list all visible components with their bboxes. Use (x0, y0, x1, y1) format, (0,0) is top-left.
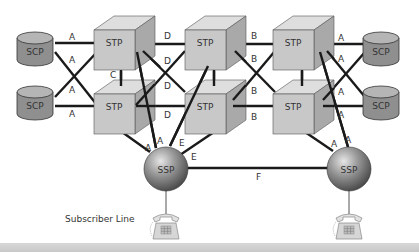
ss7-network-diagram: SCP SCP SCP SCP STP STP STP STP (0, 0, 419, 252)
scp-top-left[interactable]: SCP (17, 32, 53, 66)
telephone-right-icon[interactable] (333, 214, 362, 239)
link-label-e: E (179, 138, 185, 148)
link-label-a: A (338, 87, 345, 97)
link-label-a: A (338, 110, 345, 120)
stp-col3-top[interactable]: STP (273, 16, 334, 70)
link-label-a: A (69, 109, 76, 119)
stp-label: STP (285, 38, 302, 48)
stp-label: STP (106, 102, 123, 112)
telephone-left-icon[interactable] (150, 214, 179, 239)
stp-label: STP (285, 102, 302, 112)
subscriber-line-label: Subscriber Line (65, 214, 135, 224)
link-label-b: B (251, 54, 257, 64)
link-label-b: B (251, 112, 257, 122)
footer-bar (0, 243, 419, 252)
scp-bottom-right[interactable]: SCP (363, 86, 399, 120)
link-label-d: D (164, 31, 171, 41)
link-label-a: A (69, 32, 76, 42)
link-label-d: D (164, 81, 171, 91)
scp-label: SCP (26, 47, 44, 57)
ssp-label: SSP (341, 165, 358, 175)
link-label-f: F (256, 172, 261, 182)
stp-label: STP (197, 102, 214, 112)
link-label-d: D (164, 56, 171, 66)
ssp-right[interactable]: SSP (327, 147, 371, 191)
scp-label: SCP (26, 101, 44, 111)
ssp-label: SSP (158, 165, 175, 175)
link-label-a: A (338, 54, 345, 64)
link-label-c: C (110, 70, 116, 80)
link-label-a: A (69, 85, 76, 95)
link-label-b: B (251, 86, 257, 96)
link-label-b: B (251, 31, 257, 41)
stp-col1-top[interactable]: STP (94, 16, 155, 70)
scp-top-right[interactable]: SCP (363, 32, 399, 66)
link-label-a: A (157, 136, 164, 146)
stp-label: STP (106, 38, 123, 48)
link-label-a: A (331, 139, 338, 149)
ssp-left[interactable]: SSP (144, 147, 188, 191)
link-label-a: A (345, 135, 352, 145)
scp-label: SCP (372, 101, 390, 111)
link-label-a: A (69, 55, 76, 65)
stp-label: STP (197, 38, 214, 48)
link-ssp-r-stp-3b (305, 132, 333, 151)
link-label-a: A (338, 33, 345, 43)
link-label-a: A (145, 143, 152, 153)
scp-label: SCP (372, 47, 390, 57)
link-label-d: D (164, 110, 171, 120)
stp-col2-top[interactable]: STP (185, 16, 246, 70)
scp-bottom-left[interactable]: SCP (17, 86, 53, 120)
link-label-e: E (191, 152, 197, 162)
